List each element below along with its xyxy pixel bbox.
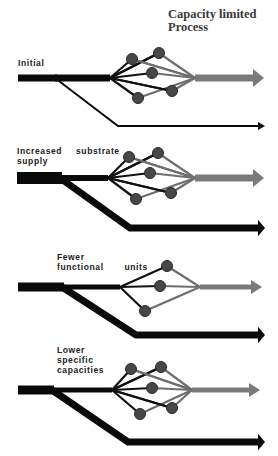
- output-flow-bar: [200, 285, 252, 290]
- panel-label-line: Increased substrate: [17, 146, 120, 156]
- output-arrowhead-icon: [249, 383, 260, 397]
- functional-unit-node: [126, 364, 137, 375]
- bypass-flow-line: [52, 390, 258, 442]
- output-arrowhead-icon: [253, 169, 264, 187]
- bypass-arrowhead-icon: [258, 434, 265, 451]
- output-branch-line: [140, 390, 192, 414]
- input-branch-line: [120, 286, 160, 287]
- functional-unit-node: [135, 409, 146, 420]
- functional-unit-node: [140, 306, 151, 317]
- output-branch-line: [136, 178, 195, 199]
- functional-unit-node: [145, 168, 156, 179]
- panel-label-line: supply: [17, 156, 120, 166]
- input-flow-bar: [17, 172, 62, 184]
- panel-label-increased-substrate-supply: Increased substratesupply: [17, 146, 120, 166]
- input-flow-bar: [18, 283, 64, 292]
- input-flow-bar: [18, 386, 54, 395]
- functional-unit-node: [155, 281, 166, 292]
- panel-label-line: specific: [57, 355, 104, 365]
- panel-label-line: capacities: [57, 365, 104, 375]
- output-flow-bar: [195, 175, 254, 182]
- bypass-flow-line: [60, 178, 258, 228]
- functional-unit-node: [167, 403, 178, 414]
- functional-unit-node: [127, 54, 138, 65]
- bypass-flow-line: [55, 78, 258, 126]
- panel-label-line: Lower: [57, 345, 104, 355]
- panel-label-line: Initial: [18, 58, 44, 68]
- output-arrowhead-icon: [253, 69, 264, 87]
- flow-diagram-canvas: [0, 0, 278, 456]
- output-flow-bar: [192, 388, 250, 393]
- bypass-flow-line: [62, 287, 258, 335]
- panel-label-line: Fewer: [57, 252, 148, 262]
- output-branch-line: [160, 286, 200, 287]
- panel-label-lower-specific-capacities: Lowerspecificcapacities: [57, 345, 104, 375]
- functional-unit-node: [147, 68, 158, 79]
- functional-unit-node: [131, 194, 142, 205]
- output-branch-line: [138, 78, 195, 98]
- output-arrowhead-icon: [251, 280, 262, 294]
- input-flow-bar: [18, 75, 57, 82]
- functional-unit-node: [167, 86, 178, 97]
- panel-label-initial: Initial: [18, 58, 44, 68]
- functional-unit-node: [162, 261, 173, 272]
- input-flow-bar-narrow: [62, 285, 120, 290]
- output-branch-line: [145, 287, 200, 311]
- bypass-arrowhead-icon: [258, 122, 265, 130]
- functional-unit-node: [133, 93, 144, 104]
- bypass-arrowhead-icon: [258, 220, 265, 237]
- panel-label-line: functional units: [57, 262, 148, 272]
- input-flow-bar-narrow: [60, 175, 108, 181]
- bypass-arrowhead-icon: [258, 327, 265, 344]
- output-flow-bar: [195, 75, 254, 82]
- panel-label-fewer-functional-units: Fewerfunctional units: [57, 252, 148, 272]
- functional-unit-node: [124, 152, 135, 163]
- input-flow-bar-narrow: [55, 75, 110, 82]
- functional-unit-node: [156, 362, 167, 373]
- functional-unit-node: [147, 383, 158, 394]
- input-flow-bar-narrow: [52, 388, 112, 393]
- functional-unit-node: [154, 48, 165, 59]
- functional-unit-node: [166, 188, 177, 199]
- functional-unit-node: [153, 148, 164, 159]
